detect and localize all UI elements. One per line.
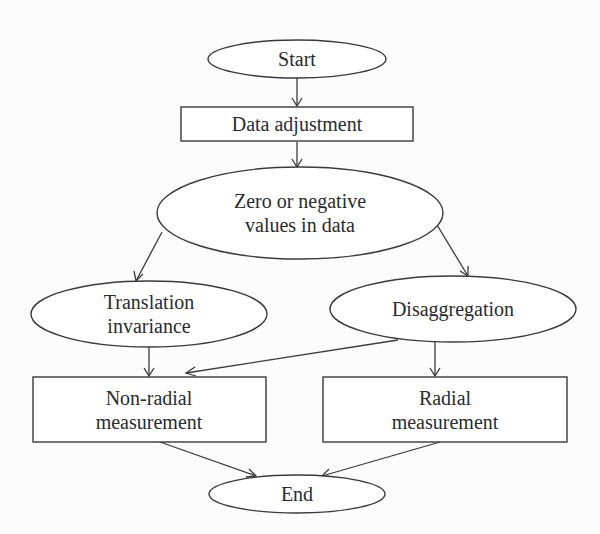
node-translation-invariance-label-line1: Translation: [104, 290, 194, 314]
node-non-radial: Non-radial measurement: [96, 386, 203, 434]
node-disaggregation-label: Disaggregation: [392, 297, 514, 321]
flowchart-canvas: Start Data adjustment Zero or negative v…: [0, 0, 600, 534]
node-data-adjustment-label: Data adjustment: [232, 112, 363, 136]
node-radial: Radial measurement: [392, 386, 499, 434]
edge-translation-invariance-to-non-radial: [144, 347, 154, 376]
node-start-label: Start: [278, 47, 316, 71]
edge-zero-negative-to-disaggregation: [434, 220, 468, 276]
node-non-radial-label-line1: Non-radial: [96, 386, 203, 410]
edge-data-adjustment-to-zero-negative: [292, 142, 302, 167]
node-end-label: End: [281, 482, 313, 506]
node-radial-label-line2: measurement: [392, 410, 499, 434]
node-disaggregation: Disaggregation: [392, 297, 514, 321]
node-zero-negative: Zero or negative values in data: [234, 189, 366, 237]
edge-zero-negative-to-translation-invariance: [134, 232, 162, 281]
node-start: Start: [278, 47, 316, 71]
edge-radial-to-end: [322, 442, 440, 477]
node-zero-negative-label-line2: values in data: [234, 213, 366, 237]
edge-disaggregation-to-non-radial: [186, 340, 398, 376]
node-non-radial-label-line2: measurement: [96, 410, 203, 434]
edge-disaggregation-to-radial: [430, 342, 440, 376]
node-radial-label-line1: Radial: [392, 386, 499, 410]
edge-non-radial-to-end: [160, 442, 256, 477]
node-data-adjustment: Data adjustment: [232, 112, 363, 136]
edge-start-to-data-adjustment: [292, 78, 302, 106]
nodes: [31, 40, 576, 513]
node-translation-invariance: Translation invariance: [104, 290, 194, 338]
node-translation-invariance-label-line2: invariance: [104, 314, 194, 338]
flowchart-graphics: [0, 0, 600, 534]
node-end: End: [281, 482, 313, 506]
node-zero-negative-label-line1: Zero or negative: [234, 189, 366, 213]
